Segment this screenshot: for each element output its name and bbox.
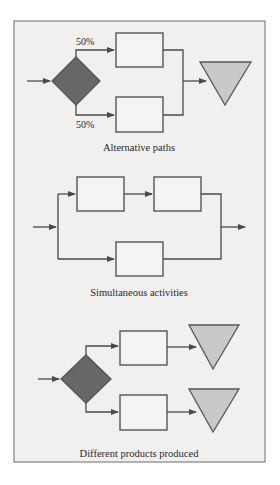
- caption-simultaneous-activities: Simultaneous activities: [90, 287, 188, 298]
- activity-box-2: [154, 177, 201, 211]
- bottom-percent-label: 50%: [76, 119, 94, 130]
- top-percent-label: 50%: [76, 36, 94, 47]
- activity-box-3: [116, 242, 163, 276]
- operation-box-bottom: [116, 97, 163, 132]
- operation-box-top: [120, 331, 167, 365]
- flow-diagram: 50% 50% Alternative paths Simultaneous a…: [0, 0, 280, 485]
- operation-box-bottom: [120, 395, 167, 430]
- caption-different-products: Different products produced: [80, 448, 200, 459]
- operation-box-top: [116, 33, 163, 67]
- activity-box-1: [77, 177, 124, 211]
- caption-alternative-paths: Alternative paths: [103, 142, 175, 153]
